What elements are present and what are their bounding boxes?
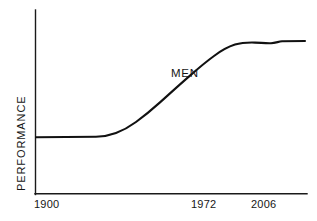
x-tick-label-1900: 1900 <box>34 198 59 210</box>
y-axis-label: PERFORMANCE <box>14 41 28 191</box>
chart-figure: PERFORMANCE MEN 1900 1972 2006 <box>0 0 317 221</box>
x-tick-label-2006: 2006 <box>251 198 276 210</box>
chart-plot-area <box>0 0 317 221</box>
x-tick-label-1972: 1972 <box>191 198 216 210</box>
series-label-men: MEN <box>171 67 199 80</box>
chart-background <box>0 0 317 221</box>
